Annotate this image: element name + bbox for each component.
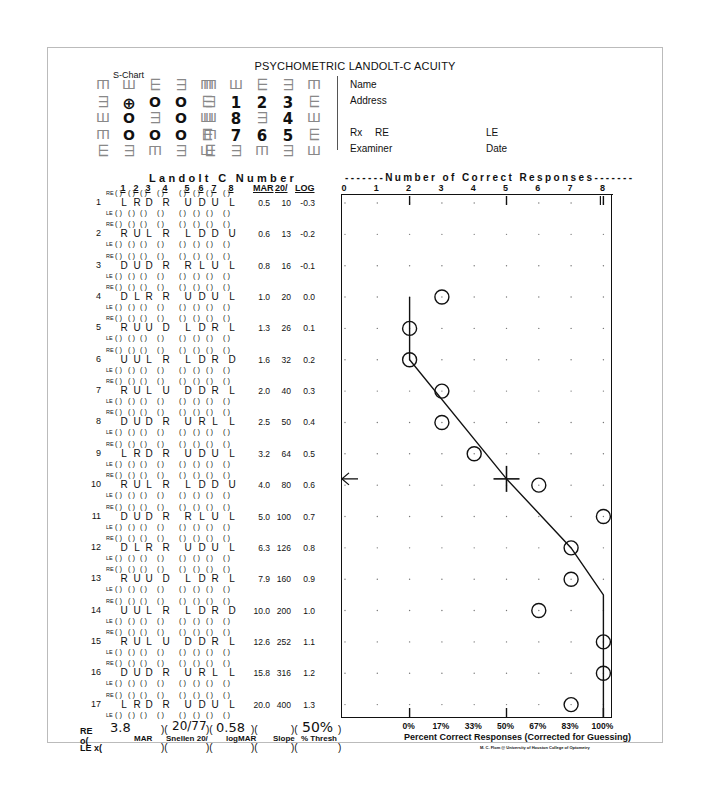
re-response-box[interactable]: ( ) bbox=[128, 596, 135, 605]
le-response-box[interactable]: ( ) bbox=[140, 490, 147, 499]
re-response-box[interactable]: ( ) bbox=[179, 564, 186, 573]
le-response-box[interactable]: ( ) bbox=[128, 239, 135, 248]
re-response-box[interactable]: ( ) bbox=[193, 376, 200, 385]
re-response-box[interactable]: ( ) bbox=[128, 658, 135, 667]
re-response-box[interactable]: ( ) bbox=[223, 470, 230, 479]
le-response-box[interactable]: ( ) bbox=[115, 208, 122, 217]
re-response-box[interactable]: ( ) bbox=[128, 345, 135, 354]
le-response-box[interactable]: ( ) bbox=[193, 522, 200, 531]
le-response-box[interactable]: ( ) bbox=[128, 584, 135, 593]
re-response-box[interactable]: ( ) bbox=[157, 188, 164, 197]
snellen-value[interactable]: 20/77 bbox=[172, 719, 207, 733]
re-response-box[interactable]: ( ) bbox=[179, 502, 186, 511]
le-response-box[interactable]: ( ) bbox=[193, 678, 200, 687]
le-response-box[interactable]: ( ) bbox=[223, 710, 230, 719]
re-response-box[interactable]: ( ) bbox=[128, 407, 135, 416]
le-response-box[interactable]: ( ) bbox=[223, 333, 230, 342]
le-response-box[interactable]: ( ) bbox=[179, 553, 186, 562]
re-response-box[interactable]: ( ) bbox=[179, 596, 186, 605]
le-response-box[interactable]: ( ) bbox=[115, 616, 122, 625]
le-response-box[interactable]: ( ) bbox=[193, 647, 200, 656]
re-response-box[interactable]: ( ) bbox=[157, 376, 164, 385]
le-response-box[interactable]: ( ) bbox=[140, 522, 147, 531]
re-response-box[interactable]: ( ) bbox=[140, 470, 147, 479]
re-response-box[interactable]: ( ) bbox=[206, 564, 213, 573]
le-response-box[interactable]: ( ) bbox=[157, 208, 164, 217]
re-response-box[interactable]: ( ) bbox=[206, 470, 213, 479]
le-response-box[interactable]: ( ) bbox=[223, 427, 230, 436]
re-response-box[interactable]: ( ) bbox=[140, 219, 147, 228]
le-response-box[interactable]: ( ) bbox=[206, 208, 213, 217]
le-response-box[interactable]: ( ) bbox=[179, 239, 186, 248]
le-response-box[interactable]: ( ) bbox=[140, 553, 147, 562]
re-response-box[interactable]: ( ) bbox=[179, 282, 186, 291]
le-response-box[interactable]: ( ) bbox=[206, 710, 213, 719]
re-response-box[interactable]: ( ) bbox=[140, 596, 147, 605]
le-response-box[interactable]: ( ) bbox=[115, 427, 122, 436]
re-response-box[interactable]: ( ) bbox=[140, 282, 147, 291]
le-response-box[interactable]: ( ) bbox=[140, 427, 147, 436]
le-response-box[interactable]: ( ) bbox=[193, 584, 200, 593]
le-response-box[interactable]: ( ) bbox=[157, 616, 164, 625]
re-response-box[interactable]: ( ) bbox=[206, 282, 213, 291]
le-response-box[interactable]: ( ) bbox=[193, 490, 200, 499]
re-response-box[interactable]: ( ) bbox=[140, 251, 147, 260]
re-response-box[interactable]: ( ) bbox=[223, 282, 230, 291]
re-response-box[interactable]: ( ) bbox=[206, 251, 213, 260]
re-response-box[interactable]: ( ) bbox=[193, 690, 200, 699]
re-response-box[interactable]: ( ) bbox=[193, 282, 200, 291]
re-response-box[interactable]: ( ) bbox=[157, 690, 164, 699]
le-response-box[interactable]: ( ) bbox=[157, 522, 164, 531]
re-response-box[interactable]: ( ) bbox=[115, 533, 122, 542]
re-response-box[interactable]: ( ) bbox=[223, 564, 230, 573]
re-response-box[interactable]: ( ) bbox=[193, 470, 200, 479]
re-response-box[interactable]: ( ) bbox=[115, 376, 122, 385]
re-response-box[interactable]: ( ) bbox=[157, 313, 164, 322]
le-response-box[interactable]: ( ) bbox=[223, 647, 230, 656]
le-response-box[interactable]: ( ) bbox=[115, 584, 122, 593]
re-response-box[interactable]: ( ) bbox=[128, 690, 135, 699]
re-response-box[interactable]: ( ) bbox=[140, 502, 147, 511]
le-response-box[interactable]: ( ) bbox=[128, 333, 135, 342]
re-response-box[interactable]: ( ) bbox=[179, 313, 186, 322]
re-response-box[interactable]: ( ) bbox=[179, 376, 186, 385]
le-response-box[interactable]: ( ) bbox=[140, 208, 147, 217]
le-response-box[interactable]: ( ) bbox=[115, 239, 122, 248]
re-response-box[interactable]: ( ) bbox=[128, 439, 135, 448]
re-response-box[interactable]: ( ) bbox=[157, 407, 164, 416]
re-response-box[interactable]: ( ) bbox=[157, 564, 164, 573]
re-response-box[interactable]: ( ) bbox=[179, 219, 186, 228]
le-response-box[interactable]: ( ) bbox=[179, 427, 186, 436]
re-response-box[interactable]: ( ) bbox=[157, 439, 164, 448]
re-response-box[interactable]: ( ) bbox=[193, 251, 200, 260]
re-response-box[interactable]: ( ) bbox=[115, 627, 122, 636]
le-response-box[interactable]: ( ) bbox=[193, 427, 200, 436]
re-response-box[interactable]: ( ) bbox=[115, 313, 122, 322]
re-response-box[interactable]: ( ) bbox=[115, 502, 122, 511]
le-response-box[interactable]: ( ) bbox=[223, 302, 230, 311]
re-response-box[interactable]: ( ) bbox=[157, 502, 164, 511]
threshold-value[interactable]: 50% bbox=[302, 719, 333, 735]
re-response-box[interactable]: ( ) bbox=[115, 345, 122, 354]
re-response-box[interactable]: ( ) bbox=[157, 596, 164, 605]
le-response-box[interactable]: ( ) bbox=[193, 333, 200, 342]
le-response-box[interactable]: ( ) bbox=[223, 678, 230, 687]
le-response-box[interactable]: ( ) bbox=[193, 616, 200, 625]
le-response-box[interactable]: ( ) bbox=[206, 678, 213, 687]
re-response-box[interactable]: ( ) bbox=[193, 313, 200, 322]
re-response-box[interactable]: ( ) bbox=[179, 470, 186, 479]
le-response-box[interactable]: ( ) bbox=[128, 365, 135, 374]
re-response-box[interactable]: ( ) bbox=[223, 407, 230, 416]
le-response-box[interactable]: ( ) bbox=[157, 271, 164, 280]
re-response-box[interactable]: ( ) bbox=[128, 502, 135, 511]
le-response-box[interactable]: ( ) bbox=[140, 333, 147, 342]
le-response-box[interactable]: ( ) bbox=[179, 584, 186, 593]
le-response-box[interactable]: ( ) bbox=[179, 459, 186, 468]
re-response-box[interactable]: ( ) bbox=[128, 251, 135, 260]
re-response-box[interactable]: ( ) bbox=[157, 219, 164, 228]
le-response-box[interactable]: ( ) bbox=[140, 710, 147, 719]
re-response-box[interactable]: ( ) bbox=[223, 596, 230, 605]
le-response-box[interactable]: ( ) bbox=[206, 459, 213, 468]
re-response-box[interactable]: ( ) bbox=[115, 658, 122, 667]
re-response-box[interactable]: ( ) bbox=[128, 219, 135, 228]
